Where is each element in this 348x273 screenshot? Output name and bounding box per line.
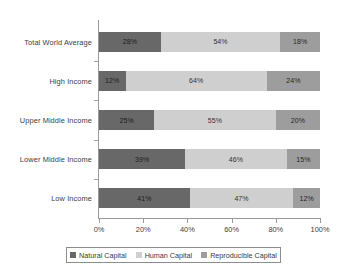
bar-segment-value-label: 64%	[189, 77, 203, 84]
bar-segment: 47%	[190, 188, 294, 208]
category-label: High Income	[0, 76, 92, 85]
bar-segment: 18%	[280, 32, 320, 52]
category-label: Upper Middle Income	[0, 116, 92, 125]
x-axis-tick	[232, 219, 233, 223]
bar-row: 12%64%24%	[99, 71, 320, 91]
bar-segment-value-label: 54%	[213, 38, 227, 45]
bar-segment: 12%	[99, 71, 126, 91]
x-axis-tick-label: 80%	[268, 225, 283, 234]
stacked-bar-chart: Total World AverageHigh IncomeUpper Midd…	[0, 0, 348, 273]
bar-segment: 39%	[99, 149, 185, 169]
bar-segment-value-label: 24%	[286, 77, 300, 84]
x-axis-tick-label: 0%	[94, 225, 105, 234]
x-axis-tick	[276, 219, 277, 223]
legend-item[interactable]: Reproducible Capital	[201, 251, 277, 260]
bar-row: 41%47%12%	[99, 188, 320, 208]
bar-segment-value-label: 12%	[105, 77, 119, 84]
bar-segment: 55%	[154, 110, 276, 130]
x-axis-line	[98, 218, 321, 219]
legend-item[interactable]: Human Capital	[136, 251, 193, 260]
bar-segment-value-label: 47%	[234, 195, 248, 202]
bar-segment: 64%	[126, 71, 267, 91]
bar-segment: 54%	[161, 32, 280, 52]
x-axis-tick	[187, 219, 188, 223]
x-axis-tick	[99, 219, 100, 223]
x-axis-tick-label: 20%	[136, 225, 151, 234]
bar-segment: 15%	[287, 149, 320, 169]
x-axis-tick	[320, 219, 321, 223]
bar-row: 25%55%20%	[99, 110, 320, 130]
bar-segment-value-label: 15%	[296, 156, 310, 163]
legend-swatch-icon	[70, 252, 76, 258]
bar-segment-value-label: 55%	[208, 117, 222, 124]
bar-segment: 12%	[293, 188, 320, 208]
bar-segment-value-label: 20%	[291, 117, 305, 124]
bar-segment: 46%	[185, 149, 287, 169]
bar-segment: 28%	[99, 32, 161, 52]
category-label: Total World Average	[0, 37, 92, 46]
bar-segment-value-label: 41%	[137, 195, 151, 202]
bar-segment: 25%	[99, 110, 154, 130]
x-axis-tick	[143, 219, 144, 223]
legend-swatch-icon	[201, 252, 207, 258]
plot-area: 28%54%18%12%64%24%25%55%20%39%46%15%41%4…	[99, 22, 320, 218]
chart-legend: Natural CapitalHuman CapitalReproducible…	[66, 247, 281, 263]
x-axis-tick-label: 100%	[311, 225, 330, 234]
bar-segment-value-label: 39%	[135, 156, 149, 163]
x-axis-tick-label: 60%	[224, 225, 239, 234]
bar-segment-value-label: 25%	[119, 117, 133, 124]
bar-segment: 41%	[99, 188, 190, 208]
legend-item[interactable]: Natural Capital	[70, 251, 127, 260]
bar-segment-value-label: 18%	[293, 38, 307, 45]
legend-item-label: Natural Capital	[79, 251, 127, 260]
category-label: Lower Middle Income	[0, 155, 92, 164]
legend-item-label: Reproducible Capital	[210, 251, 277, 260]
legend-item-label: Human Capital	[145, 251, 193, 260]
bar-segment-value-label: 28%	[123, 38, 137, 45]
bar-segment-value-label: 12%	[300, 195, 314, 202]
legend-swatch-icon	[136, 252, 142, 258]
bar-segment-value-label: 46%	[229, 156, 243, 163]
bar-segment: 20%	[276, 110, 320, 130]
x-axis-tick-label: 40%	[180, 225, 195, 234]
category-label: Low Income	[0, 194, 92, 203]
bar-row: 28%54%18%	[99, 32, 320, 52]
bar-row: 39%46%15%	[99, 149, 320, 169]
bar-segment: 24%	[267, 71, 320, 91]
